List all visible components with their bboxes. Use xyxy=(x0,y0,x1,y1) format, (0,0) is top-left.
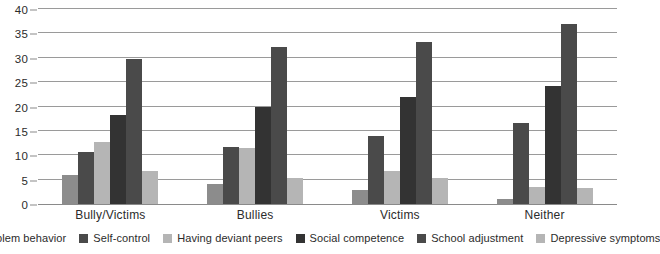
bar xyxy=(287,178,303,204)
legend-label: Self-control xyxy=(93,232,150,244)
bar xyxy=(577,188,593,204)
x-axis-label: Neither xyxy=(472,208,617,222)
bar xyxy=(110,115,126,204)
y-tick-label: 0 xyxy=(21,199,28,211)
legend-swatch-icon xyxy=(296,234,305,243)
gridline xyxy=(38,8,617,9)
plot-wrapper: 0510152025303540 xyxy=(0,0,625,212)
y-tick-mark xyxy=(30,156,37,157)
y-tick-label: 40 xyxy=(15,4,28,16)
y-tick-label: 30 xyxy=(15,53,28,65)
bar xyxy=(561,24,577,204)
bar xyxy=(416,42,432,204)
y-axis: 0510152025303540 xyxy=(0,0,30,212)
legend-item[interactable]: Problem behavior xyxy=(0,232,66,244)
bar xyxy=(529,187,545,204)
bar-group xyxy=(472,10,617,204)
y-tick-mark xyxy=(30,83,37,84)
y-tick-mark xyxy=(30,34,37,35)
bar xyxy=(352,190,368,204)
bar-groups xyxy=(38,10,617,204)
bar xyxy=(126,59,142,204)
plot-area xyxy=(38,10,617,205)
bar-group xyxy=(183,10,328,204)
y-tick-label: 25 xyxy=(15,77,28,89)
bar xyxy=(368,136,384,204)
bar xyxy=(223,147,239,204)
bar xyxy=(142,171,158,204)
legend-item[interactable]: Having deviant peers xyxy=(163,232,282,244)
bar xyxy=(400,97,416,204)
bar xyxy=(384,171,400,204)
bar xyxy=(207,184,223,204)
y-tick-label: 10 xyxy=(15,150,28,162)
bar xyxy=(78,152,94,204)
bar xyxy=(497,199,513,204)
x-axis-labels: Bully/VictimsBulliesVictimsNeither xyxy=(38,208,617,222)
y-tick-mark xyxy=(30,107,37,108)
y-tick-label: 5 xyxy=(21,175,28,187)
bar xyxy=(62,175,78,204)
legend-item[interactable]: Self-control xyxy=(79,232,150,244)
bar xyxy=(255,107,271,204)
legend-swatch-icon xyxy=(417,234,426,243)
y-tick-mark xyxy=(30,180,37,181)
legend-label: Having deviant peers xyxy=(177,232,282,244)
bar-group xyxy=(328,10,473,204)
legend-item[interactable]: Social competence xyxy=(296,232,405,244)
bar-group xyxy=(38,10,183,204)
legend-label: Problem behavior xyxy=(0,232,66,244)
legend-item[interactable]: School adjustment xyxy=(417,232,523,244)
chart-legend: Problem behaviorSelf-controlHaving devia… xyxy=(0,232,625,244)
x-axis-label: Bullies xyxy=(183,208,328,222)
y-tick-mark xyxy=(30,131,37,132)
y-tick-label: 15 xyxy=(15,126,28,138)
legend-swatch-icon xyxy=(163,234,172,243)
bar xyxy=(513,123,529,204)
x-axis-label: Bully/Victims xyxy=(38,208,183,222)
bar xyxy=(271,47,287,204)
bar xyxy=(239,148,255,204)
legend-label: Depressive symptoms xyxy=(550,232,660,244)
y-tick-mark xyxy=(30,205,37,206)
x-axis-label: Victims xyxy=(328,208,473,222)
legend-label: School adjustment xyxy=(431,232,523,244)
y-tick-mark xyxy=(30,58,37,59)
bar xyxy=(94,142,110,204)
y-tick-label: 35 xyxy=(15,28,28,40)
legend-label: Social competence xyxy=(310,232,405,244)
y-tick-mark xyxy=(30,10,37,11)
bar xyxy=(432,178,448,204)
legend-swatch-icon xyxy=(536,234,545,243)
bar xyxy=(545,86,561,204)
legend-item[interactable]: Depressive symptoms xyxy=(536,232,660,244)
legend-swatch-icon xyxy=(79,234,88,243)
y-tick-label: 20 xyxy=(15,102,28,114)
